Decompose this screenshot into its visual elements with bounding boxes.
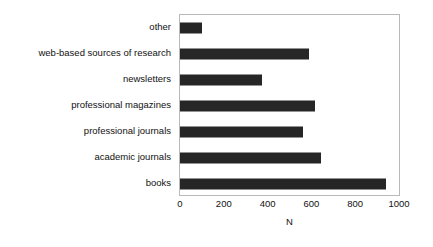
category-label: professional magazines (71, 100, 171, 110)
x-axis-title: N (179, 216, 400, 227)
x-tick-label: 800 (347, 198, 363, 209)
category-label: academic journals (94, 152, 171, 162)
category-label: professional journals (84, 126, 171, 136)
x-tick-label: 1000 (388, 198, 409, 209)
x-tick-label: 0 (177, 198, 182, 209)
bar (180, 75, 262, 86)
x-axis-ticks: 02004006008001000 (179, 196, 400, 216)
bar (180, 49, 309, 60)
category-label: web-based sources of research (38, 48, 171, 58)
category-axis-labels: otherweb-based sources of researchnewsle… (0, 14, 176, 196)
category-label: newsletters (123, 74, 171, 84)
bar (180, 153, 321, 164)
bar (180, 23, 202, 34)
plot-area (180, 15, 399, 195)
category-label: other (149, 22, 171, 32)
bar (180, 179, 386, 190)
plot-frame (179, 14, 400, 196)
bar (180, 101, 315, 112)
x-tick-label: 600 (303, 198, 319, 209)
x-tick-label: 400 (260, 198, 276, 209)
bar-chart: otherweb-based sources of researchnewsle… (0, 0, 433, 247)
category-label: books (146, 178, 171, 188)
bar (180, 127, 303, 138)
x-tick-label: 200 (216, 198, 232, 209)
